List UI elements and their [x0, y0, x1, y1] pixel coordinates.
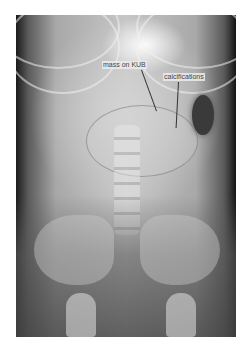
right-femoral-head: [166, 293, 196, 337]
annotation-label-calcifications: calcifications: [163, 73, 205, 81]
rib-right-2: [136, 15, 236, 94]
left-femoral-head: [66, 293, 96, 337]
right-iliac-bone: [140, 215, 220, 285]
left-iliac-bone: [34, 215, 114, 285]
bowel-gas: [192, 95, 214, 135]
abdominal-mass: [86, 105, 198, 177]
annotation-label-mass: mass on KUB: [102, 61, 147, 69]
rib-left-2: [16, 15, 120, 94]
